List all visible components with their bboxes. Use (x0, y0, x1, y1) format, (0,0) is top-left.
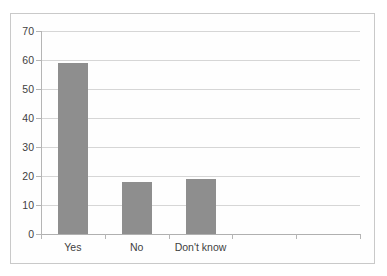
x-axis-tick-mark (41, 234, 42, 239)
y-axis-tick-label: 40 (4, 113, 34, 123)
y-axis-tick-label: 50 (4, 84, 34, 94)
y-axis-tick-label: 20 (4, 171, 34, 181)
bar (58, 63, 88, 234)
y-axis-tick-label: 10 (4, 200, 34, 210)
x-axis-tick-mark (360, 234, 361, 239)
x-axis-line (41, 234, 360, 235)
x-axis-tick-mark (169, 234, 170, 239)
x-axis-tick-mark (232, 234, 233, 239)
x-axis-tick-mark (296, 234, 297, 239)
y-axis-tick-label: 30 (4, 142, 34, 152)
bar (186, 179, 216, 234)
y-axis-tick-label: 70 (4, 26, 34, 36)
y-axis-tick-label: 60 (4, 55, 34, 65)
x-axis-tick-label: Don't know (141, 241, 261, 253)
bars-layer (41, 31, 360, 234)
y-axis-tick-labels: 010203040506070 (0, 0, 34, 276)
bar-chart-figure: 010203040506070 YesNoDon't know (0, 0, 387, 276)
x-axis-tick-mark (105, 234, 106, 239)
bar (122, 182, 152, 234)
y-axis-tick-label: 0 (4, 229, 34, 239)
